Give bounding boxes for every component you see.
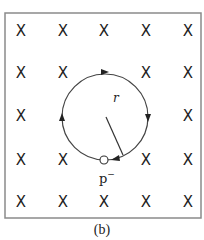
field-x-marker: X xyxy=(183,193,193,211)
circular-orbit-path xyxy=(62,74,148,160)
field-x-marker: X xyxy=(16,193,26,211)
radius-label: r xyxy=(113,91,120,105)
field-region-border xyxy=(5,13,201,218)
orbit-arrow-left xyxy=(59,113,65,121)
field-x-marker: X xyxy=(99,22,109,40)
field-x-marker: X xyxy=(16,107,26,125)
field-x-marker: X xyxy=(183,151,193,169)
figure-caption: (b) xyxy=(0,222,204,238)
radius-line xyxy=(106,117,123,155)
particle-label: p− xyxy=(99,169,115,186)
field-x-marker: X xyxy=(58,151,68,169)
field-x-marker: X xyxy=(58,22,68,40)
field-x-marker: X xyxy=(16,151,26,169)
field-x-marker: X xyxy=(141,64,151,82)
field-x-marker: X xyxy=(183,64,193,82)
field-x-marker: X xyxy=(141,193,151,211)
field-x-marker: X xyxy=(16,22,26,40)
field-x-marker: X xyxy=(99,193,109,211)
velocity-arrow xyxy=(111,155,120,161)
field-x-marker: X xyxy=(58,64,68,82)
orbit-arrow-right xyxy=(145,114,151,122)
field-x-marker: X xyxy=(183,107,193,125)
field-x-marker: X xyxy=(141,151,151,169)
field-x-marker: X xyxy=(16,64,26,82)
field-x-marker: X xyxy=(183,22,193,40)
field-x-marker: X xyxy=(58,193,68,211)
field-x-marker: X xyxy=(141,22,151,40)
diagram-figure: XXXXXXXXXXXXXXXXXXXX r p− xyxy=(0,0,204,240)
particle-marker xyxy=(100,156,108,164)
